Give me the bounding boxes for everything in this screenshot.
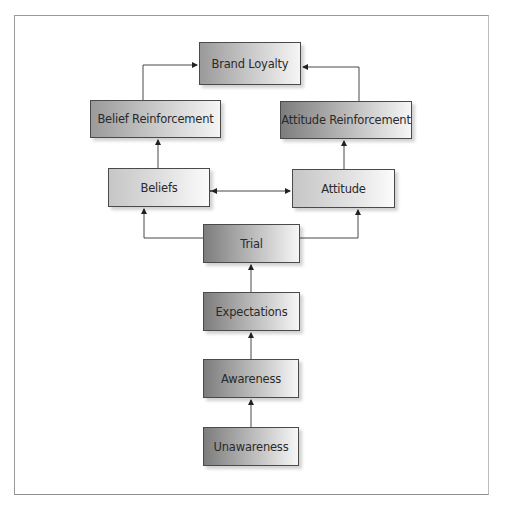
node-unawareness: Unawareness <box>203 427 299 466</box>
node-label: Attitude Reinforcement <box>281 113 410 127</box>
node-belief-reinforcement: Belief Reinforcement <box>90 100 221 138</box>
node-label: Belief Reinforcement <box>97 112 213 126</box>
node-label: Trial <box>240 237 263 251</box>
node-expectations: Expectations <box>203 292 300 331</box>
arrow-trial-to-attitude <box>300 210 358 238</box>
node-brand-loyalty: Brand Loyalty <box>199 42 301 85</box>
node-label: Expectations <box>216 305 288 319</box>
arrow-trial-to-beliefs <box>144 209 203 238</box>
node-label: Awareness <box>221 372 281 386</box>
arrow-belief-reinforcement-to-brand-loyalty <box>143 65 197 100</box>
arrow-attitude-reinforcement-to-brand-loyalty <box>303 67 359 101</box>
node-label: Beliefs <box>140 181 177 195</box>
node-label: Unawareness <box>214 440 289 454</box>
node-trial: Trial <box>203 224 300 263</box>
arrowhead-left <box>211 188 217 194</box>
node-attitude: Attitude <box>292 169 395 208</box>
node-awareness: Awareness <box>203 359 299 398</box>
node-attitude-reinforcement: Attitude Reinforcement <box>280 101 412 139</box>
node-beliefs: Beliefs <box>108 168 210 207</box>
node-label: Brand Loyalty <box>212 57 289 71</box>
node-label: Attitude <box>321 182 365 196</box>
